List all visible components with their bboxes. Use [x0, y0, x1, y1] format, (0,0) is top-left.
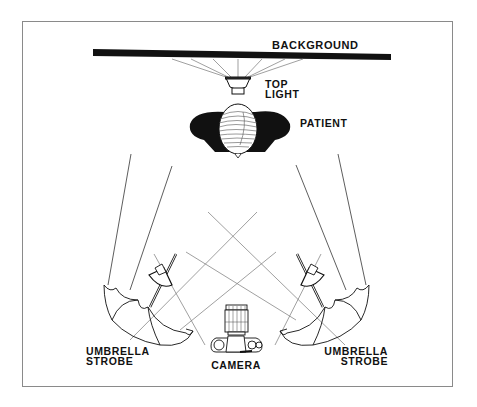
- camera-icon: [211, 305, 262, 352]
- top-light-label-line2: LIGHT: [265, 89, 300, 99]
- right-strobe-label-line2: STROBE: [320, 356, 388, 366]
- top-light-icon: [226, 77, 251, 94]
- patient-head-icon: [190, 104, 290, 158]
- background-label: BACKGROUND: [272, 40, 359, 50]
- umbrella-strobe-icon: [280, 254, 369, 345]
- right-umbrella-rays: [296, 154, 366, 290]
- left-strobe-label-line2: STROBE: [86, 356, 133, 366]
- patient-label: PATIENT: [300, 118, 348, 128]
- top-light-rays: [172, 59, 303, 77]
- camera-label: CAMERA: [206, 360, 266, 370]
- lighting-diagram: [0, 0, 477, 407]
